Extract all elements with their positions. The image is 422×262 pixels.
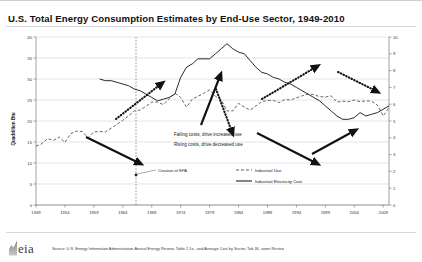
epa-annotation-label: Creation of EPA xyxy=(158,168,187,173)
chart-area: 0510152025303540 012345678910 1949195419… xyxy=(4,29,418,229)
y-tick-label-right: 9 xyxy=(393,51,396,56)
x-tick-label: 1949 xyxy=(31,210,41,215)
y-tick-label-right: 10 xyxy=(393,35,398,40)
legend-label-industrial-electricity-cost: Industrial Electricity Cost xyxy=(255,179,303,184)
x-axis-ticks: 1949195419591964196919741979198419891994… xyxy=(31,205,388,215)
y-tick-label-left: 35 xyxy=(27,56,32,61)
slide-canvas: U.S. Total Energy Consumption Estimates … xyxy=(0,0,422,262)
gridlines xyxy=(36,37,389,205)
y-tick-label-right: 4 xyxy=(393,135,396,140)
y-tick-label-right: 0 xyxy=(393,203,396,208)
footer: eia Source: U.S. Energy Information Admi… xyxy=(8,237,416,259)
y-tick-label-left: 10 xyxy=(27,161,32,166)
x-tick-label: 2004 xyxy=(350,210,360,215)
footer-divider xyxy=(6,232,416,233)
y-tick-label-left: 15 xyxy=(27,140,32,145)
x-tick-label: 1959 xyxy=(89,210,99,215)
y-tick-label-right: 5 xyxy=(393,119,396,124)
x-tick-label: 1994 xyxy=(292,210,302,215)
chart-legend: Industrial Use Industrial Electricity Co… xyxy=(236,168,303,184)
x-tick-label: 1964 xyxy=(118,210,128,215)
arrow-use-rising-1 xyxy=(116,84,161,119)
y-axis-right-ticks: 012345678910 xyxy=(389,35,398,208)
y-tick-label-right: 7 xyxy=(393,85,396,90)
source-note: Source: U.S. Energy Information Administ… xyxy=(52,246,284,251)
arrow-cost-rising-2 xyxy=(312,131,354,154)
y-axis-label: Quadrillion Btu xyxy=(11,112,16,145)
y-tick-label-left: 5 xyxy=(30,182,33,187)
arrow-use-falling-1 xyxy=(216,89,232,132)
eia-logo: eia xyxy=(8,239,46,258)
eia-logo-text: eia xyxy=(18,241,34,256)
y-tick-label-right: 2 xyxy=(393,169,396,174)
y-tick-label-left: 40 xyxy=(27,35,32,40)
arrow-use-falling-2 xyxy=(338,72,376,91)
y-axis-left-ticks: 0510152025303540 xyxy=(27,35,36,208)
energy-consumption-chart: 0510152025303540 012345678910 1949195419… xyxy=(4,29,418,229)
legend-label-industrial-use: Industrial Use xyxy=(255,168,282,173)
y-tick-label-left: 0 xyxy=(30,203,33,208)
y-tick-label-right: 3 xyxy=(393,152,396,157)
x-tick-label: 1954 xyxy=(60,210,70,215)
y-tick-label-left: 25 xyxy=(27,98,32,103)
x-tick-label: 1969 xyxy=(147,210,157,215)
arrow-cost-falling-1 xyxy=(86,137,139,163)
y-tick-label-right: 1 xyxy=(393,186,396,191)
y-tick-label-left: 30 xyxy=(27,77,32,82)
epa-marker-dot xyxy=(135,174,138,177)
eia-logomark-icon xyxy=(9,241,17,256)
x-tick-label: 1979 xyxy=(205,210,215,215)
page-title: U.S. Total Energy Consumption Estimates … xyxy=(8,13,408,24)
x-tick-label: 1974 xyxy=(176,210,186,215)
title-divider xyxy=(6,26,416,27)
x-tick-label: 1999 xyxy=(321,210,331,215)
callout-rising-costs: Rising costs, drive decreased use xyxy=(174,142,243,147)
x-tick-label: 1989 xyxy=(263,210,273,215)
y-tick-label-left: 20 xyxy=(27,119,32,124)
x-tick-label: 1984 xyxy=(234,210,244,215)
callout-falling-costs: Falling costs, drive increased use xyxy=(174,132,242,137)
y-tick-label-right: 6 xyxy=(393,102,396,107)
arrow-cost-rising-1 xyxy=(201,76,220,125)
x-tick-label: 2009 xyxy=(379,210,389,215)
y-tick-label-right: 8 xyxy=(393,68,396,73)
arrow-cost-falling-2 xyxy=(257,133,316,163)
epa-leader-line xyxy=(137,170,156,174)
